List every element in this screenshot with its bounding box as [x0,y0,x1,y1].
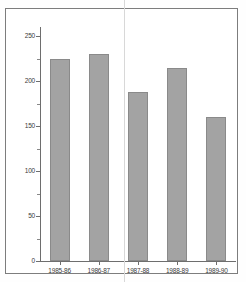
y-tick-150 [36,126,41,127]
y-tick-label: 200 [25,78,35,85]
x-tick-1987-88 [138,261,139,265]
y-tick-label: 150 [25,123,35,130]
page-fold-line [124,0,125,282]
x-tick-1988-89 [177,261,178,265]
y-tick-label: 0 [32,258,35,265]
x-tick-label-1988-89: 1988-89 [166,268,188,275]
y-tick-100 [36,171,41,172]
bar-1987-88 [128,92,148,261]
y-tick-200 [36,81,41,82]
bar-1986-87 [89,54,109,261]
y-tick-label: 100 [25,168,35,175]
bar-1985-86 [50,59,70,262]
x-tick-1986-87 [99,261,100,265]
figure-root: 050100150200250 1985-861986-871987-88198… [0,0,246,282]
y-tick-label: 250 [25,33,35,40]
x-tick-1989-90 [216,261,217,265]
bar-1988-89 [167,68,187,261]
y-tick-250 [36,36,41,37]
y-minor-tick-125 [37,149,40,150]
y-tick-50 [36,216,41,217]
y-minor-tick-175 [37,104,40,105]
y-axis-line [40,27,41,261]
y-tick-0 [36,261,41,262]
x-tick-label-1987-88: 1987-88 [127,268,149,275]
y-minor-tick-25 [37,239,40,240]
x-tick-label-1986-87: 1986-87 [88,268,110,275]
x-tick-1985-86 [60,261,61,265]
bar-1989-90 [206,117,226,261]
plot-area: 050100150200250 1985-861986-871987-88198… [40,27,236,261]
page-frame: 050100150200250 1985-861986-871987-88198… [5,8,238,274]
y-minor-tick-225 [37,59,40,60]
x-tick-label-1985-86: 1985-86 [48,268,70,275]
y-minor-tick-75 [37,194,40,195]
x-tick-label-1989-90: 1989-90 [205,268,227,275]
y-tick-label: 50 [28,213,35,220]
